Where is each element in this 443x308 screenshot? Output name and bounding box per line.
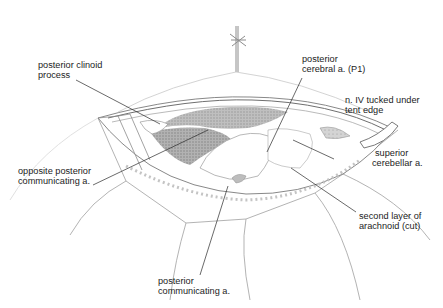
- label-line: opposite posterior: [18, 166, 91, 176]
- label-opposite-posterior-communicating-a: opposite posterior communicating a.: [18, 166, 91, 187]
- label-superior-cerebellar-a: superior cerebellar a.: [372, 148, 423, 169]
- label-line: process: [38, 70, 102, 80]
- label-posterior-cerebral-a-p1: posterior cerebral a. (P1): [302, 54, 365, 75]
- label-line: superior: [372, 148, 423, 158]
- suture-stitch-icon: [230, 26, 246, 72]
- label-posterior-communicating-a: posterior communicating a.: [158, 276, 230, 297]
- label-line: communicating a.: [18, 176, 91, 186]
- label-second-layer-arachnoid: second layer of arachnoid (cut): [359, 211, 421, 232]
- label-n-iv-tucked: n. IV tucked under tent edge: [345, 95, 420, 116]
- label-line: second layer of: [359, 211, 421, 221]
- anatomical-illustration: posterior clinoid process posterior cere…: [0, 0, 443, 308]
- label-line: arachnoid (cut): [359, 221, 421, 231]
- label-line: posterior: [158, 276, 230, 286]
- label-posterior-clinoid-process: posterior clinoid process: [38, 60, 102, 81]
- label-line: n. IV tucked under: [345, 95, 420, 105]
- leader-pcom: [200, 186, 228, 275]
- label-line: cerebral a. (P1): [302, 64, 365, 74]
- label-line: posterior: [302, 54, 365, 64]
- label-line: posterior clinoid: [38, 60, 102, 70]
- label-line: cerebellar a.: [372, 158, 423, 168]
- label-line: tent edge: [345, 105, 420, 115]
- label-line: communicating a.: [158, 286, 230, 296]
